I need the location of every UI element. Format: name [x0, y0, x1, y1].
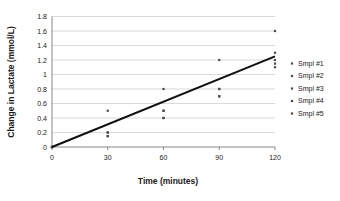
y-tick-label: 1.6	[37, 28, 47, 35]
data-point	[107, 110, 109, 112]
legend-label: Smpl #5	[298, 110, 324, 118]
x-tick-labels-group: 0306090120	[50, 147, 281, 161]
y-tick-label: 1.4	[37, 42, 47, 49]
data-point	[274, 52, 276, 54]
trendline-group	[52, 56, 275, 147]
legend-label: Smpl #2	[298, 72, 324, 80]
data-point	[107, 131, 109, 133]
legend-label: Smpl #1	[298, 60, 324, 68]
data-point	[274, 63, 276, 65]
y-tick-label: 0.6	[37, 100, 47, 107]
y-tick-label: 0.2	[37, 129, 47, 136]
y-tick-label: 1.2	[37, 57, 47, 64]
legend-marker	[291, 62, 293, 64]
y-tick-label: 0	[43, 144, 47, 151]
data-point	[162, 88, 164, 90]
data-point	[218, 59, 220, 61]
y-tick-labels-group: 00.20.40.60.811.21.41.61.8	[37, 13, 47, 151]
y-tick-label: 0.4	[37, 115, 47, 122]
x-tick-label: 60	[160, 154, 168, 161]
data-point	[162, 117, 164, 119]
chart-canvas: 00.20.40.60.811.21.41.61.8 0306090120 Sm…	[0, 0, 340, 201]
gridlines-group	[52, 17, 275, 133]
legend-label: Smpl #4	[298, 97, 324, 105]
legend-label: Smpl #3	[298, 85, 324, 93]
data-point	[218, 88, 220, 90]
legend-marker	[291, 112, 293, 114]
legend-group: Smpl #1Smpl #2Smpl #3Smpl #4Smpl #5	[291, 60, 324, 118]
data-point	[162, 110, 164, 112]
y-tick-label: 1.8	[37, 13, 47, 20]
x-tick-label: 0	[50, 154, 54, 161]
trendline	[52, 56, 275, 147]
x-tick-label: 120	[269, 154, 281, 161]
lactate-scatter-chart: 00.20.40.60.811.21.41.61.8 0306090120 Sm…	[0, 0, 340, 201]
data-point	[274, 59, 276, 61]
y-tick-label: 0.8	[37, 86, 47, 93]
y-axis-title: Change in Lactate (mmol/L)	[6, 26, 16, 138]
legend-marker	[291, 75, 293, 77]
x-tick-label: 30	[104, 154, 112, 161]
legend-marker	[291, 100, 293, 102]
x-tick-label: 90	[215, 154, 223, 161]
legend-marker	[291, 87, 293, 89]
data-point	[218, 95, 220, 97]
axes-group	[52, 17, 275, 148]
y-tick-label: 1	[43, 71, 47, 78]
data-point	[274, 30, 276, 32]
data-point	[274, 66, 276, 68]
x-axis-title: Time (minutes)	[138, 176, 198, 186]
data-point	[107, 135, 109, 137]
